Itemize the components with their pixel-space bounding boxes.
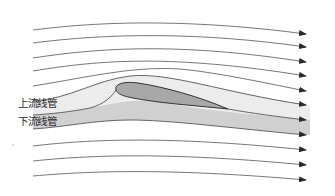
upper-stream-tube-label: 上流线管 <box>18 97 57 109</box>
streamline-3 <box>33 49 306 62</box>
streamline-2 <box>33 36 306 47</box>
streamline-below-3 <box>33 172 306 180</box>
streamline-1 <box>33 23 306 34</box>
streamline-below-1 <box>33 140 306 150</box>
streamline-below-2 <box>33 156 306 165</box>
lower-stream-tube-label: 下流线管 <box>18 115 57 127</box>
scan-dot <box>12 144 13 145</box>
